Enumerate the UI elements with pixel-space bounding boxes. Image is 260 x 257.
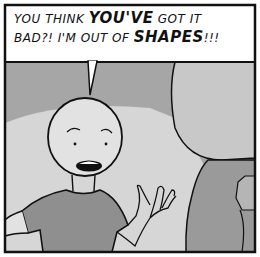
caption-line-2: BAD?! I'M OUT OF SHAPES!!!: [14, 28, 250, 47]
caption-line-1: YOU THINK YOU'VE GOT IT: [14, 9, 250, 28]
caption-text: YOU THINK YOU'VE GOT IT BAD?! I'M OUT OF…: [14, 9, 250, 47]
emphasis-shapes: SHAPES: [134, 28, 204, 46]
right-figure-hand: [236, 176, 255, 210]
comic-panel: YOU THINK YOU'VE GOT IT BAD?! I'M OUT OF…: [0, 0, 260, 257]
emphasis-youve: YOU'VE: [89, 9, 154, 27]
